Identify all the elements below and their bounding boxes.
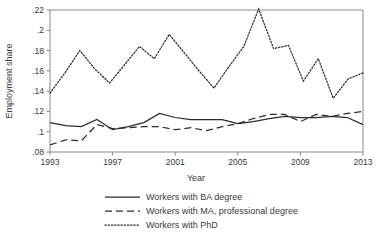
series-line-3 <box>50 9 363 98</box>
y-tick-label: .1 <box>37 127 44 137</box>
y-tick-label: .22 <box>32 5 44 15</box>
series-line-2 <box>50 111 363 144</box>
x-tick-label: 1997 <box>103 157 122 167</box>
x-tick-label: 2009 <box>291 157 310 167</box>
data-series-group <box>50 9 363 145</box>
x-tick-label: 2013 <box>354 157 373 167</box>
x-axis: 199319972001200520092013 <box>41 152 373 167</box>
employment-share-line-chart: .08.1.12.14.16.18.2.22 19931997200120052… <box>0 0 382 243</box>
x-tick-label: 1993 <box>41 157 60 167</box>
legend-label-2: Workers with MA, professional degree <box>146 206 298 216</box>
x-tick-label: 2005 <box>228 157 247 167</box>
y-tick-label: .12 <box>32 106 44 116</box>
legend-label-3: Workers with PhD <box>146 220 218 230</box>
y-tick-label: .2 <box>37 25 44 35</box>
x-tick-label: 2001 <box>166 157 185 167</box>
y-tick-label: .08 <box>32 147 44 157</box>
chart-figure: .08.1.12.14.16.18.2.22 19931997200120052… <box>0 0 382 243</box>
series-line-1 <box>50 113 363 129</box>
x-axis-title: Year <box>187 173 205 183</box>
y-axis: .08.1.12.14.16.18.2.22 <box>32 5 50 157</box>
legend-label-1: Workers with BA degree <box>146 192 242 202</box>
y-tick-label: .18 <box>32 46 44 56</box>
y-tick-label: .16 <box>32 66 44 76</box>
y-axis-title: Employment share <box>4 43 14 118</box>
chart-legend: Workers with BA degreeWorkers with MA, p… <box>105 192 298 230</box>
y-tick-label: .14 <box>32 86 44 96</box>
